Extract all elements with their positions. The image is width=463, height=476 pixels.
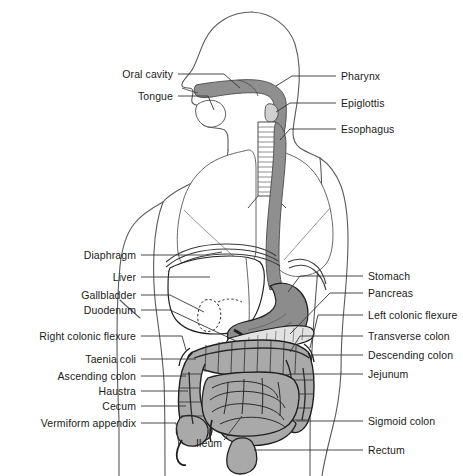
label-transverse-colon: Transverse colon (368, 330, 450, 342)
label-liver: Liver (113, 271, 136, 283)
label-esophagus: Esophagus (341, 123, 394, 135)
label-pharynx: Pharynx (341, 70, 380, 82)
torso-left-flank-path (154, 202, 165, 476)
label-diaphragm: Diaphragm (84, 249, 136, 261)
leader-left-colonic-flexure (310, 315, 363, 348)
label-pancreas: Pancreas (368, 287, 413, 299)
label-ascending-colon: Ascending colon (57, 370, 136, 382)
label-jejunum: Jejunum (368, 368, 408, 380)
gallbladder-path (198, 299, 221, 331)
digestive-system-figure: Oral cavityTongueDiaphragmLiverGallbladd… (0, 0, 463, 476)
label-sigmoid-colon: Sigmoid colon (368, 415, 435, 427)
label-left-colonic-flexure: Left colonic flexure (368, 309, 458, 321)
label-right-colonic-flexure: Right colonic flexure (39, 330, 136, 342)
leader-esophagus (280, 129, 336, 140)
label-taenia-coli: Taenia coli (85, 353, 136, 365)
rectum-path (227, 438, 257, 474)
label-ileum: Ileum (196, 437, 222, 449)
label-cecum: Cecum (102, 400, 136, 412)
label-vermiform-appendix: Vermiform appendix (41, 417, 136, 429)
label-gallbladder: Gallbladder (81, 289, 136, 301)
label-rectum: Rectum (368, 444, 405, 456)
label-duodenum: Duodenum (84, 304, 136, 316)
leader-pharynx (276, 76, 336, 86)
label-oral-cavity: Oral cavity (122, 68, 173, 80)
label-epiglottis: Epiglottis (341, 97, 385, 109)
pelvis-right-path (322, 372, 341, 476)
epiglottis-path (265, 104, 278, 122)
label-haustra: Haustra (99, 385, 136, 397)
label-stomach: Stomach (368, 270, 410, 282)
label-tongue: Tongue (138, 90, 173, 102)
label-descending-colon: Descending colon (368, 349, 453, 361)
tongue-path (196, 100, 226, 127)
leader-vermiform-appendix (141, 423, 179, 446)
leader-right-colonic-flexure (141, 336, 186, 350)
anatomy-illustration (0, 0, 463, 476)
